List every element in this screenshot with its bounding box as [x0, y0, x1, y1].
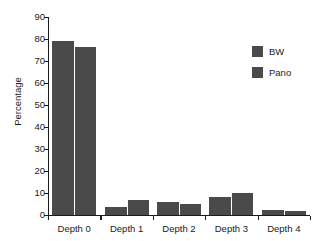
bar — [105, 207, 127, 215]
bar — [157, 202, 179, 215]
bar — [179, 204, 201, 215]
y-tick-label: 50 — [34, 99, 45, 110]
y-tick-label: 40 — [34, 121, 45, 132]
y-tick-label: 10 — [34, 187, 45, 198]
x-axis-line — [48, 215, 310, 216]
x-tick-label: Depth 3 — [215, 223, 248, 234]
bar — [52, 41, 74, 215]
x-tick-label: Depth 0 — [58, 223, 91, 234]
y-tick-label: 0 — [40, 209, 45, 220]
x-tick-mark — [100, 216, 101, 220]
legend: BW Pano — [252, 41, 291, 83]
bar — [74, 47, 96, 215]
bar — [127, 200, 149, 215]
bar — [262, 210, 284, 215]
legend-label-pano: Pano — [269, 67, 291, 78]
x-tick-label: Depth 4 — [267, 223, 300, 234]
legend-swatch-pano — [252, 67, 263, 78]
x-tick-mark — [48, 216, 49, 220]
legend-item-bw: BW — [252, 41, 291, 62]
bar-chart: Percentage 0102030405060708090 Depth 0De… — [0, 0, 326, 241]
legend-label-bw: BW — [269, 46, 284, 57]
legend-item-pano: Pano — [252, 62, 291, 83]
x-tick-mark — [153, 216, 154, 220]
y-axis-line — [48, 17, 49, 215]
x-tick-mark — [258, 216, 259, 220]
x-tick-label: Depth 2 — [162, 223, 195, 234]
bar — [209, 197, 231, 215]
y-tick-label: 90 — [34, 11, 45, 22]
y-axis-title: Percentage — [12, 52, 23, 152]
x-tick-mark — [205, 216, 206, 220]
bar — [284, 211, 306, 215]
x-tick-mark — [310, 216, 311, 220]
y-tick-label: 80 — [34, 33, 45, 44]
y-tick-label: 30 — [34, 143, 45, 154]
bar — [231, 193, 253, 215]
legend-swatch-bw — [252, 46, 263, 57]
y-tick-label: 70 — [34, 55, 45, 66]
y-tick-label: 20 — [34, 165, 45, 176]
x-tick-label: Depth 1 — [110, 223, 143, 234]
y-tick-label: 60 — [34, 77, 45, 88]
